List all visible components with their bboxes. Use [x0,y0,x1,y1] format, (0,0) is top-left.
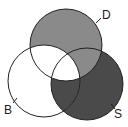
label-b: B [4,103,12,117]
label-d: D [102,8,111,22]
label-s: S [114,107,122,121]
venn-diagram: D B S [0,0,128,127]
label-d-leader [96,18,101,23]
